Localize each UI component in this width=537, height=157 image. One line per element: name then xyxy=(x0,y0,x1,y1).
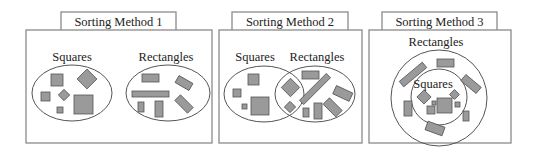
square-shape xyxy=(248,74,259,85)
panel-1-rectangles-label: Rectangles xyxy=(139,50,194,64)
rectangle-shape xyxy=(155,101,163,117)
square-shape xyxy=(233,89,241,97)
panel-2-squares-label: Squares xyxy=(235,50,275,64)
panel-1-squares-label: Squares xyxy=(52,50,92,64)
square-shape xyxy=(455,102,460,107)
square-shape xyxy=(41,92,50,101)
panel-sorting-method-1: Sorting Method 1 Squares Rectangles xyxy=(26,12,212,143)
square-shape xyxy=(242,104,247,109)
sorting-methods-diagram: Sorting Method 1 Squares Rectangles Sort… xyxy=(0,0,537,157)
rectangle-shape xyxy=(138,102,144,112)
rectangle-shape xyxy=(404,101,412,116)
square-shape xyxy=(437,98,452,113)
panel-sorting-method-2: Sorting Method 2 Squares Rectangles xyxy=(219,12,362,143)
panel-3-squares-label: Squares xyxy=(413,77,453,91)
square-shape xyxy=(432,101,436,105)
panel-2-title: Sorting Method 2 xyxy=(246,15,334,29)
panel-2-rectangles-label: Rectangles xyxy=(290,50,345,64)
square-shape xyxy=(57,107,63,113)
rectangle-shape xyxy=(142,74,159,82)
panel-3-title: Sorting Method 3 xyxy=(395,15,483,29)
rectangle-shape xyxy=(132,91,169,97)
rectangle-shape xyxy=(302,71,319,79)
square-shape xyxy=(51,74,63,86)
panel-sorting-method-3: Sorting Method 3 Rectangles Squares xyxy=(369,12,511,146)
panel-1-title: Sorting Method 1 xyxy=(74,15,162,29)
rectangle-shape xyxy=(463,111,469,121)
rectangle-shape xyxy=(314,103,322,119)
panel-3-rectangles-label: Rectangles xyxy=(409,35,464,49)
rectangle-shape xyxy=(437,59,454,67)
square-shape xyxy=(74,95,93,114)
rectangle-shape xyxy=(303,108,309,117)
square-shape xyxy=(251,97,269,115)
square-shape xyxy=(427,106,435,114)
